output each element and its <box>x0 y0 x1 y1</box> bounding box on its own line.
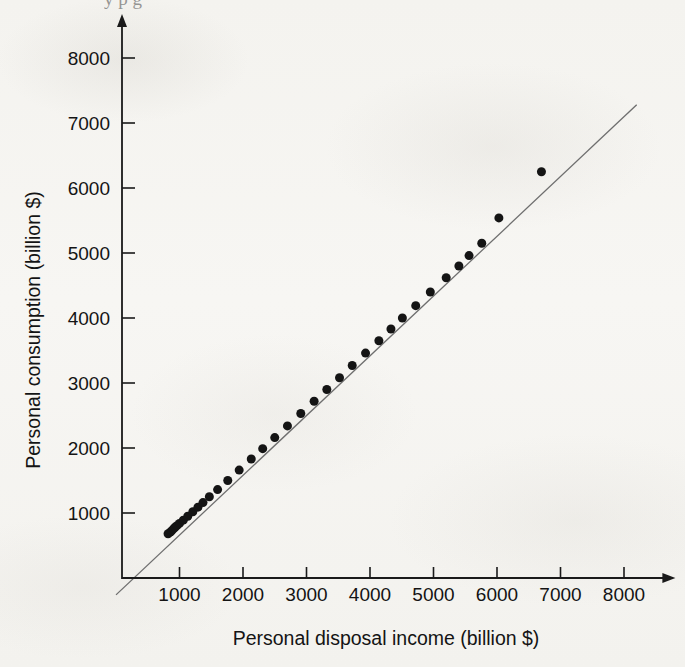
data-point <box>223 476 232 485</box>
x-axis-tick-labels: 10002000300040005000600070008000 <box>158 584 645 605</box>
y-tick-label: 8000 <box>68 48 110 69</box>
y-tick-label: 1000 <box>68 503 110 524</box>
data-point <box>247 455 256 464</box>
x-axis-ticks <box>180 567 625 578</box>
data-point <box>270 433 279 442</box>
data-point <box>296 409 305 418</box>
x-tick-label: 7000 <box>539 584 581 605</box>
data-point <box>465 251 474 260</box>
y-axis-ticks <box>122 58 135 513</box>
y-axis-tick-labels: 10002000300040005000600070008000 <box>68 48 110 524</box>
data-point <box>361 349 370 358</box>
data-point <box>205 492 214 501</box>
plot-canvas: 10002000300040005000600070008000 1000200… <box>0 0 685 667</box>
y-tick-label: 3000 <box>68 373 110 394</box>
x-tick-label: 1000 <box>158 584 200 605</box>
y-tick-label: 2000 <box>68 438 110 459</box>
x-tick-label: 5000 <box>412 584 454 605</box>
regression-line <box>116 105 637 595</box>
axes <box>117 14 675 583</box>
data-point <box>442 273 451 282</box>
data-point <box>494 213 503 222</box>
data-point <box>426 288 435 297</box>
data-point <box>454 262 463 271</box>
y-tick-label: 7000 <box>68 113 110 134</box>
x-tick-label: 2000 <box>222 584 264 605</box>
data-point <box>411 301 420 310</box>
x-tick-label: 8000 <box>603 584 645 605</box>
data-point <box>283 421 292 430</box>
data-points <box>164 167 546 538</box>
data-point <box>235 466 244 475</box>
data-point <box>213 485 222 494</box>
x-axis-title: Personal disposal income (billion $) <box>233 627 540 649</box>
scatter-plot-figure: y p g 10002000300040005000600070008000 1… <box>0 0 685 667</box>
data-point <box>477 239 486 248</box>
data-point <box>398 314 407 323</box>
data-point <box>322 385 331 394</box>
data-point <box>258 444 267 453</box>
y-axis-title: Personal consumption (billion $) <box>22 191 44 468</box>
y-tick-label: 4000 <box>68 308 110 329</box>
x-tick-label: 6000 <box>476 584 518 605</box>
x-tick-label: 3000 <box>285 584 327 605</box>
data-point <box>348 361 357 370</box>
data-point <box>310 397 319 406</box>
data-point <box>335 373 344 382</box>
data-point <box>386 325 395 334</box>
y-tick-label: 6000 <box>68 178 110 199</box>
y-tick-label: 5000 <box>68 243 110 264</box>
data-point <box>537 167 546 176</box>
x-tick-label: 4000 <box>349 584 391 605</box>
data-point <box>374 336 383 345</box>
